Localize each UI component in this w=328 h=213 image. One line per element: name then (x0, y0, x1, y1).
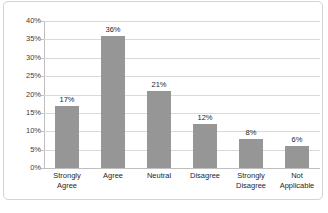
y-tick-label-0: 0% (1, 164, 41, 172)
x-label-not-applicable: Not Applicable (274, 171, 320, 190)
x-label-line: Strongly (228, 171, 274, 181)
bar-value-label-neutral: 21% (151, 80, 166, 89)
x-axis-line (44, 168, 320, 169)
bar-chart: 40% 35% 30% 25% 20% 15% 10% 5% 0% (0, 0, 328, 213)
y-tick-label-20: 20% (1, 91, 41, 99)
y-tick-label-5: 5% (1, 146, 41, 154)
bar-strongly-disagree[interactable] (239, 139, 263, 168)
x-label-agree: Agree (90, 171, 136, 181)
x-label-disagree: Disagree (182, 171, 228, 181)
x-label-strongly-agree: Strongly Agree (44, 171, 90, 190)
bar-group-neutral[interactable]: 21% (136, 21, 182, 168)
bar-value-label-strongly-disagree: 8% (246, 128, 257, 137)
x-axis-labels: Strongly Agree Agree Neutral Disagree St… (44, 171, 320, 199)
x-label-line: Applicable (274, 181, 320, 191)
y-tick-label-25: 25% (1, 72, 41, 80)
bar-group-disagree[interactable]: 12% (182, 21, 228, 168)
y-tick-label-15: 15% (1, 109, 41, 117)
bar-group-strongly-disagree[interactable]: 8% (228, 21, 274, 168)
plot-area: 17% 36% 21% 12% 8% 6% (44, 21, 320, 168)
y-tick-label-35: 35% (1, 35, 41, 43)
bar-group-strongly-agree[interactable]: 17% (44, 21, 90, 168)
x-label-line: Strongly (44, 171, 90, 181)
x-label-line: Disagree (182, 171, 228, 181)
y-tick-label-40: 40% (1, 17, 41, 25)
y-axis-labels: 40% 35% 30% 25% 20% 15% 10% 5% 0% (0, 21, 41, 168)
bar-agree[interactable] (101, 36, 125, 168)
y-tick-label-30: 30% (1, 54, 41, 62)
figure: 40% 35% 30% 25% 20% 15% 10% 5% 0% (0, 0, 328, 213)
x-label-line: Not (274, 171, 320, 181)
bar-value-label-not-applicable: 6% (292, 135, 303, 144)
x-label-line: Disagree (228, 181, 274, 191)
bar-strongly-agree[interactable] (55, 106, 79, 168)
bar-value-label-disagree: 12% (197, 113, 212, 122)
bar-group-agree[interactable]: 36% (90, 21, 136, 168)
y-tick-label-10: 10% (1, 127, 41, 135)
x-label-strongly-disagree: Strongly Disagree (228, 171, 274, 190)
x-label-line: Neutral (136, 171, 182, 181)
x-label-line: Agree (44, 181, 90, 191)
bar-value-label-strongly-agree: 17% (59, 95, 74, 104)
bar-neutral[interactable] (147, 91, 171, 168)
bar-not-applicable[interactable] (285, 146, 309, 168)
bar-disagree[interactable] (193, 124, 217, 168)
x-label-line: Agree (90, 171, 136, 181)
x-label-neutral: Neutral (136, 171, 182, 181)
bar-value-label-agree: 36% (105, 25, 120, 34)
bar-group-not-applicable[interactable]: 6% (274, 21, 320, 168)
